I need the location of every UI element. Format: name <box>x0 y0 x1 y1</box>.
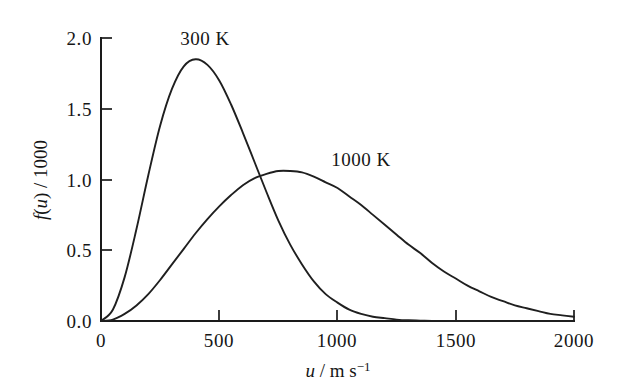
x-axis-ticks <box>101 310 574 321</box>
x-axis-title-variable: u <box>305 360 315 381</box>
y-tick-label-1.5: 1.5 <box>66 99 92 120</box>
y-axis-title: f(u) / 1000 <box>30 140 52 220</box>
y-tick-label-2.0: 2.0 <box>66 28 92 49</box>
y-axis-ticks <box>101 38 112 321</box>
x-axis-title: u / m s−1 <box>305 359 370 381</box>
maxwell-boltzmann-figure: 2.0 1.5 1.0 0.5 0.0 0 500 1000 1500 2000 <box>0 0 623 391</box>
chart-canvas: 2.0 1.5 1.0 0.5 0.0 0 500 1000 1500 2000 <box>0 0 623 391</box>
curve-1000K <box>101 171 574 321</box>
x-axis-tick-labels: 0 500 1000 1500 2000 <box>96 330 594 351</box>
y-tick-label-0.0: 0.0 <box>66 311 92 332</box>
data-curves <box>101 59 574 321</box>
axis-lines <box>101 38 574 321</box>
x-axis-title-units: / m s <box>315 360 357 381</box>
curve-300K <box>101 59 574 321</box>
y-axis-tick-labels: 2.0 1.5 1.0 0.5 0.0 <box>66 28 92 332</box>
x-axis-title-exponent: −1 <box>357 359 371 374</box>
y-axis-title-rest: ) / 1000 <box>30 140 52 199</box>
y-axis-title-variable: u <box>30 199 51 209</box>
x-tick-label-0: 0 <box>96 330 106 351</box>
y-tick-label-0.5: 0.5 <box>66 240 92 261</box>
series-label-1000K: 1000 K <box>331 149 390 170</box>
y-tick-label-1.0: 1.0 <box>66 170 92 191</box>
series-label-300K: 300 K <box>180 28 229 49</box>
x-tick-label-1500: 1500 <box>436 330 476 351</box>
x-tick-label-1000: 1000 <box>317 330 357 351</box>
x-tick-label-2000: 2000 <box>554 330 594 351</box>
x-tick-label-500: 500 <box>204 330 234 351</box>
